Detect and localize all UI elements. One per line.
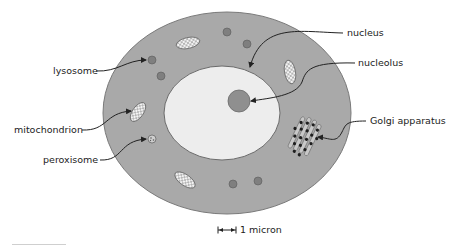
cell-diagram: lysosome mitochondrion peroxisome nucleu… — [0, 0, 450, 247]
label-nucleus: nucleus — [347, 27, 384, 38]
nucleus — [164, 66, 280, 160]
scale-bar — [218, 227, 236, 234]
lysosome — [148, 56, 156, 64]
label-mitochondrion: mitochondrion — [14, 124, 83, 135]
label-peroxisome: peroxisome — [43, 154, 98, 165]
nucleolus — [228, 90, 250, 112]
label-lysosome: lysosome — [53, 65, 98, 76]
lysosome-dot — [229, 180, 237, 188]
scale-bar-label: 1 micron — [240, 224, 282, 235]
label-nucleolus: nucleolus — [358, 57, 403, 68]
lysosome-dot — [157, 72, 165, 80]
divider-line — [12, 244, 66, 245]
lysosome-dot — [243, 40, 251, 48]
lysosome-dot — [254, 177, 262, 185]
label-golgi-apparatus: Golgi apparatus — [370, 115, 446, 126]
peroxisome — [148, 135, 156, 143]
lysosome-dot — [223, 28, 231, 36]
